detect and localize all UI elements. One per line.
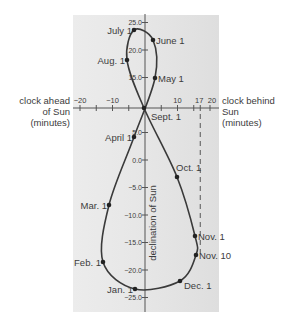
point-label: Oct. 1 — [176, 162, 201, 173]
analemma-diagram: −20−1010172025.020.015.05.00.0−5.0−10.0−… — [0, 0, 293, 314]
point-label: July 1 — [107, 25, 132, 36]
point-marker — [132, 135, 137, 140]
x-tick-label: 17 — [195, 96, 203, 105]
point-marker — [125, 58, 130, 63]
point-label: Sept. 1 — [151, 111, 181, 122]
point-marker — [194, 253, 199, 258]
clock-behind-label: Sun — [222, 106, 239, 117]
point-marker — [193, 234, 198, 239]
point-label: Feb. 1 — [74, 257, 101, 268]
date-point: Nov. 10 — [194, 250, 231, 261]
point-label: Aug. 1 — [98, 55, 125, 66]
point-marker — [132, 28, 137, 33]
clock-behind-label: (minutes) — [222, 117, 262, 128]
point-marker — [175, 175, 180, 180]
analemma-chart: −20−1010172025.020.015.05.00.0−5.0−10.0−… — [0, 0, 293, 314]
date-point: Nov. 1 — [193, 231, 225, 242]
date-point: Aug. 1 — [98, 55, 130, 66]
y-tick-label: 0.0 — [132, 157, 142, 164]
point-label: Nov. 10 — [199, 250, 231, 261]
date-point: May 1 — [153, 73, 184, 84]
date-point: Feb. 1 — [74, 257, 105, 268]
point-label: May 1 — [158, 73, 184, 84]
point-marker — [178, 279, 183, 284]
point-label: Dec. 1 — [184, 280, 211, 291]
clock-ahead-label: of Sun — [43, 106, 70, 117]
y-tick-label: −10.0 — [124, 212, 142, 219]
date-point: Jan. 1 — [107, 284, 137, 295]
date-point: June 1 — [151, 35, 185, 46]
x-tick-label: −10 — [106, 96, 119, 105]
point-label: Jan. 1 — [107, 284, 133, 295]
x-tick-label: −20 — [74, 96, 87, 105]
y-tick-label: −15.0 — [124, 239, 142, 246]
x-tick-label: 20 — [208, 96, 216, 105]
point-marker — [107, 203, 112, 208]
point-label: April 1 — [105, 132, 132, 143]
y-tick-label: 20.0 — [128, 47, 142, 54]
clock-ahead-label: clock ahead — [19, 95, 70, 106]
date-point: July 1 — [107, 25, 136, 36]
declination-label: declination of Sun — [147, 185, 158, 261]
point-label: Mar. 1 — [81, 200, 107, 211]
point-marker — [151, 38, 156, 43]
point-marker — [153, 76, 158, 81]
point-label: Nov. 1 — [198, 231, 225, 242]
clock-behind-label: clock behind — [222, 95, 275, 106]
clock-ahead-label: (minutes) — [30, 117, 70, 128]
y-tick-label: −5.0 — [128, 184, 142, 191]
date-point: Mar. 1 — [81, 200, 112, 211]
y-tick-label: −20.0 — [124, 267, 142, 274]
point-marker — [101, 260, 106, 265]
x-tick-label: 10 — [173, 96, 181, 105]
point-marker — [133, 287, 138, 292]
point-marker — [142, 106, 147, 111]
date-point: April 1 — [105, 132, 136, 143]
y-tick-label: −25.0 — [124, 294, 142, 301]
point-label: June 1 — [156, 35, 185, 46]
